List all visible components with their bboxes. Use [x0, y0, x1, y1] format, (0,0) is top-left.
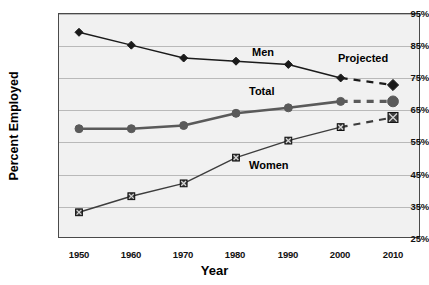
chart-container: 95% 85% 75% 65% 55% 45% 35% 25% 1950 196…: [0, 0, 429, 285]
gridline-65: [59, 110, 419, 111]
y-tick-label: 65%: [377, 104, 429, 115]
gridline-75: [59, 78, 419, 79]
gridline-35: [59, 207, 419, 208]
x-tick-label: 1980: [215, 249, 255, 260]
y-tick-label: 95%: [377, 8, 429, 19]
y-tick-label: 75%: [377, 72, 429, 83]
x-tick-label: 1950: [59, 249, 99, 260]
x-tick-label: 2000: [320, 249, 360, 260]
y-tick-label: 85%: [377, 40, 429, 51]
gridline-95: [59, 14, 419, 15]
plot-area: [58, 13, 420, 238]
x-tick-label: 1970: [163, 249, 203, 260]
gridline-55: [59, 142, 419, 143]
x-tick-label: 1960: [111, 249, 151, 260]
y-tick-label: 25%: [377, 233, 429, 244]
y-axis-title: Percent Employed: [7, 61, 21, 191]
y-tick-label: 45%: [377, 169, 429, 180]
series-label-total: Total: [249, 85, 274, 97]
gridline-85: [59, 46, 419, 47]
y-tick-label: 35%: [377, 201, 429, 212]
series-label-women: Women: [249, 159, 289, 171]
gridline-45: [59, 175, 419, 176]
series-label-men: Men: [252, 46, 274, 58]
y-tick-label: 55%: [377, 136, 429, 147]
x-axis-title: Year: [0, 263, 429, 278]
annotation-projected: Projected: [338, 52, 388, 64]
x-tick-label: 2010: [373, 249, 413, 260]
x-tick-label: 1990: [268, 249, 308, 260]
